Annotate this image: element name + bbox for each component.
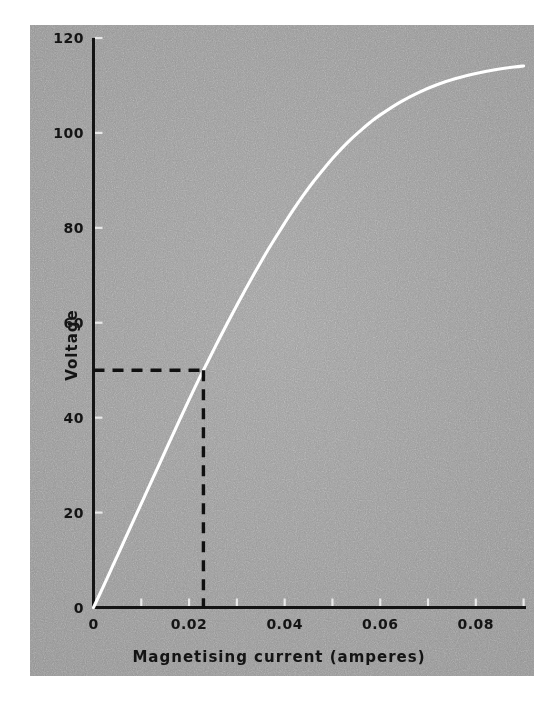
y-axis-tick-label: 20 <box>46 505 84 521</box>
x-axis-tick-label: 0.02 <box>171 616 208 632</box>
x-axis-title: Magnetising current (amperes) <box>132 648 425 666</box>
x-axis-tick-label: 0.08 <box>458 616 495 632</box>
y-axis-tick-label: 80 <box>46 220 84 236</box>
x-axis-tick-label: 0.06 <box>362 616 399 632</box>
x-axis-tick-label: 0.04 <box>266 616 303 632</box>
halftone-noise-texture <box>30 25 534 676</box>
y-axis-tick-label: 0 <box>46 600 84 616</box>
x-axis-tick-label: 0 <box>88 616 98 632</box>
y-axis-tick-label: 120 <box>46 30 84 46</box>
magnetisation-curve-figure: 020406080100120 00.020.040.060.08 Voltag… <box>0 0 558 702</box>
y-axis-title: Voltage <box>63 309 81 380</box>
y-axis-tick-label: 100 <box>46 125 84 141</box>
y-axis-tick-label: 40 <box>46 410 84 426</box>
scanned-plate-background <box>30 25 534 676</box>
